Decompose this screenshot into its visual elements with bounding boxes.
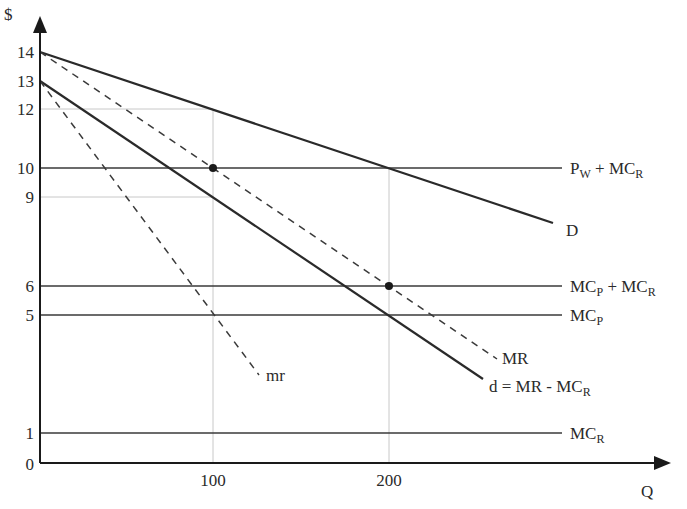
line-MR xyxy=(40,52,497,359)
label-d: d = MR - MCR xyxy=(489,377,591,399)
y-axis-label: $ xyxy=(4,5,13,24)
marker-q100-p10 xyxy=(209,164,217,172)
label-mr: mr xyxy=(266,366,285,385)
chart-canvas: $ Q 14 13 12 10 9 6 5 1 0 100 200 PW + M… xyxy=(0,0,687,509)
y-tick-labels: 14 13 12 10 9 6 5 1 0 xyxy=(17,43,35,474)
label-mcp-mcr: MCP + MCR xyxy=(570,277,656,299)
y-tick-12: 12 xyxy=(17,100,34,119)
y-tick-9: 9 xyxy=(26,188,35,207)
x-axis-label: Q xyxy=(641,482,653,501)
label-mcp: MCP xyxy=(570,306,603,328)
y-tick-1: 1 xyxy=(26,424,35,443)
y-tick-10: 10 xyxy=(17,159,34,178)
x-axis-arrow-icon xyxy=(654,456,671,470)
x-tick-labels: 100 200 xyxy=(200,471,402,490)
label-D: D xyxy=(566,221,578,240)
y-tick-6: 6 xyxy=(26,277,35,296)
label-MR: MR xyxy=(502,349,529,368)
marker-q200-p6 xyxy=(385,282,393,290)
x-tick-200: 200 xyxy=(376,471,402,490)
y-tick-14: 14 xyxy=(17,43,35,62)
y-axis-arrow-icon xyxy=(33,16,47,33)
y-tick-13: 13 xyxy=(17,72,34,91)
label-mcr: MCR xyxy=(570,424,604,446)
horizontal-lines xyxy=(40,168,562,433)
label-pw-mcr: PW + MCR xyxy=(570,159,643,181)
y-tick-0: 0 xyxy=(26,455,35,474)
x-tick-100: 100 xyxy=(200,471,226,490)
y-tick-5: 5 xyxy=(26,306,35,325)
